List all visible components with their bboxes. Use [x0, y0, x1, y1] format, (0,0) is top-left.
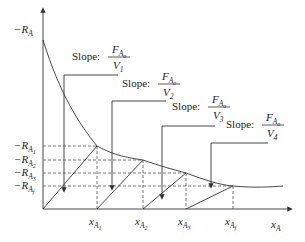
svg-text:V4: V4: [267, 127, 278, 142]
slope-label: Slope:FAoV2: [122, 70, 180, 101]
slope-label: Slope:FAoV4: [226, 111, 284, 142]
x-level-label: xAf: [224, 215, 237, 231]
operating-line-1: [43, 146, 97, 209]
x-level-label: xA1: [88, 215, 101, 231]
operating-line-3: [143, 173, 186, 209]
levenspiel-diagram: −RA −RA1−RA2−RA3−RAf xA1xA2xA3xAf xA Slo…: [0, 0, 305, 242]
svg-text:V2: V2: [163, 86, 174, 101]
x-level-label: xA3: [177, 215, 190, 231]
slope-label: Slope:FAoV3: [172, 93, 230, 124]
svg-text:Slope:: Slope:: [226, 118, 254, 130]
slope-leader-4: [211, 143, 268, 186]
y-axis-top-label: −RA: [14, 23, 33, 38]
x-axis-label: xA: [270, 218, 281, 233]
operating-line-2: [97, 160, 143, 209]
svg-text:V3: V3: [213, 109, 224, 124]
rate-curve: [43, 40, 283, 187]
svg-text:V1: V1: [113, 59, 123, 74]
slope-label: Slope:FAoV1: [72, 43, 130, 74]
svg-text:Slope:: Slope:: [172, 100, 200, 112]
operating-line-4: [186, 186, 233, 209]
svg-text:Slope:: Slope:: [122, 77, 150, 89]
x-level-label: xA2: [134, 215, 147, 231]
svg-text:Slope:: Slope:: [72, 50, 100, 62]
slope-leader-2: [112, 101, 166, 188]
